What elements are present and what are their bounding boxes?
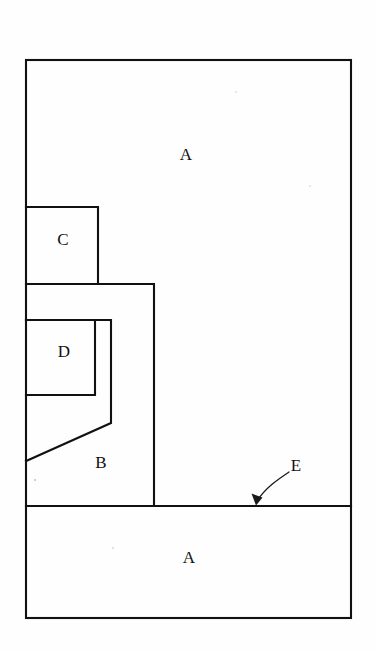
diagram-canvas: A C D B A E [0,0,375,653]
label-a-upper: A [180,145,193,164]
label-a-lower: A [183,548,196,567]
label-c: C [57,230,69,249]
label-e: E [291,456,302,475]
label-d: D [58,342,70,361]
technical-diagram: A C D B A E [0,0,375,653]
label-b: B [95,453,107,472]
